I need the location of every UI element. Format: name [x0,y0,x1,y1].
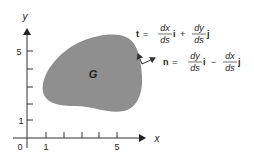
tangent-term1-vec: i [173,29,176,39]
x-axis-label: x [154,133,161,144]
tangent-equation: t = dx ds i + dy ds j [136,23,210,45]
normal-term2-num: dx [225,51,235,61]
x-tick-label-5: 5 [114,142,119,152]
tangent-term1-den: ds [160,35,170,45]
normal-lhs: n [163,57,169,67]
x-tick-label-1: 1 [43,142,48,152]
normal-term1-vec: i [203,57,206,67]
diagram-canvas: G y x 0 5 1 1 5 t = dx ds i + dy ds j [0,0,254,165]
normal-term2-den: ds [225,63,235,73]
origin-label: 0 [17,142,22,152]
y-ticks [27,51,33,120]
normal-equals: = [172,57,177,67]
tangent-term2-den: ds [194,35,204,45]
normal-vector-arrow [142,58,155,64]
tangent-term2-vec: j [206,29,210,39]
y-tick-label-1: 1 [18,116,23,126]
normal-term1-num: dy [190,51,200,61]
tangent-plus: + [180,29,185,39]
y-tick-label-5: 5 [16,47,21,57]
y-axis-label: y [22,11,29,22]
tangent-lhs: t [136,29,139,39]
tangent-term1-num: dx [160,23,170,33]
tangent-equals: = [143,29,148,39]
normal-term1-den: ds [190,63,200,73]
tangent-term2-num: dy [194,23,204,33]
normal-equation: n = dy ds i − dx ds j [163,51,241,73]
x-ticks [46,132,117,138]
normal-term2-vec: j [237,57,241,67]
region-label: G [89,68,98,80]
normal-minus: − [211,57,216,67]
